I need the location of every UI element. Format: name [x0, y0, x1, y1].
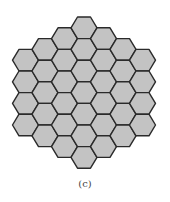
hexagon-cell	[130, 71, 156, 93]
hexagon-cell	[130, 93, 156, 115]
hexagon-cell	[130, 49, 156, 71]
hexagon-cells	[13, 17, 156, 168]
hexagon-cell	[130, 114, 156, 136]
hexagon-grid-diagram	[0, 0, 170, 202]
figure-caption: (c)	[0, 178, 170, 189]
